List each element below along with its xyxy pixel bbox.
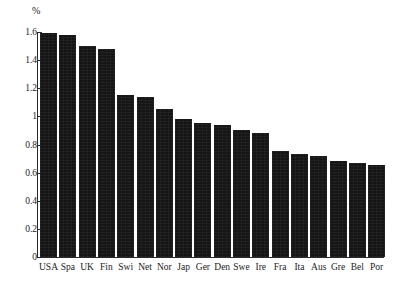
y-tick-label: 0.2 (3, 224, 37, 234)
y-tick-label: 0.4 (3, 196, 37, 206)
x-axis-label: Por (359, 261, 395, 273)
y-tick-label: 1.4 (3, 55, 37, 65)
bar (40, 33, 57, 257)
bar (291, 154, 308, 257)
y-tick-label: 1.6 (3, 27, 37, 37)
y-tick-label: 1.2 (3, 83, 37, 93)
y-tick-label: 1 (3, 111, 37, 121)
bar (117, 95, 134, 257)
bar (330, 161, 347, 257)
bar (98, 49, 115, 257)
plot-area (38, 32, 384, 257)
bar (59, 35, 76, 257)
bar (349, 163, 366, 257)
bar (252, 133, 269, 257)
y-axis-unit-label: % (32, 5, 40, 16)
bar (214, 125, 231, 257)
bar (137, 97, 154, 257)
bar (175, 119, 192, 257)
bar (79, 46, 96, 257)
y-tick-label: 0.6 (3, 168, 37, 178)
y-tick-label: 0.8 (3, 140, 37, 150)
x-axis-line (37, 257, 384, 258)
bar (156, 109, 173, 257)
bar (272, 151, 289, 257)
bar (310, 156, 327, 257)
bar (233, 130, 250, 257)
bar (194, 123, 211, 257)
bar (368, 165, 385, 257)
bar-chart: % 1.61.41.210.80.60.40.20 USASpaUKFinSwi… (0, 0, 407, 285)
